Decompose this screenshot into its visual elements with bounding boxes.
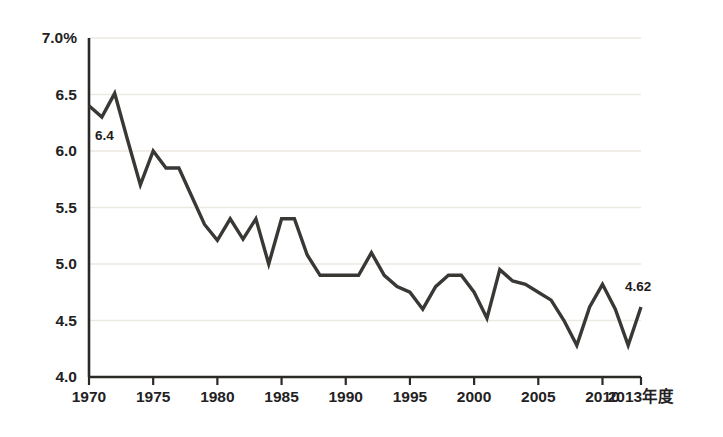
y-tick-label-6: 6.0 bbox=[55, 142, 77, 159]
x-tick-label-1980: 1980 bbox=[200, 388, 234, 405]
y-tick-label-5.5: 5.5 bbox=[55, 199, 77, 216]
x-tick-label-1975: 1975 bbox=[136, 388, 171, 405]
x-tick-label-1990: 1990 bbox=[329, 388, 363, 405]
x-tick-label-1995: 1995 bbox=[393, 388, 428, 405]
y-tick-label-5: 5.0 bbox=[55, 255, 77, 272]
y-tick-label-4: 4.0 bbox=[55, 368, 77, 385]
chart-background bbox=[0, 0, 723, 437]
y-tick-label-6.5: 6.5 bbox=[55, 86, 77, 103]
line-chart: 4.04.55.05.56.06.57.0% 19701975198019851… bbox=[0, 0, 723, 437]
data-label-4.62: 4.62 bbox=[625, 279, 651, 294]
data-label-6.4: 6.4 bbox=[95, 128, 114, 143]
x-tick-label-1985: 1985 bbox=[264, 388, 299, 405]
x-tick-label-2000: 2000 bbox=[457, 388, 491, 405]
y-tick-label-7: 7.0% bbox=[42, 29, 78, 46]
x-tick-label-2005: 2005 bbox=[521, 388, 556, 405]
y-tick-label-4.5: 4.5 bbox=[55, 312, 77, 329]
chart-canvas: 4.04.55.05.56.06.57.0% 19701975198019851… bbox=[0, 0, 723, 437]
x-tick-label-2013: 2013年度 bbox=[608, 387, 674, 405]
x-tick-label-1970: 1970 bbox=[72, 388, 106, 405]
